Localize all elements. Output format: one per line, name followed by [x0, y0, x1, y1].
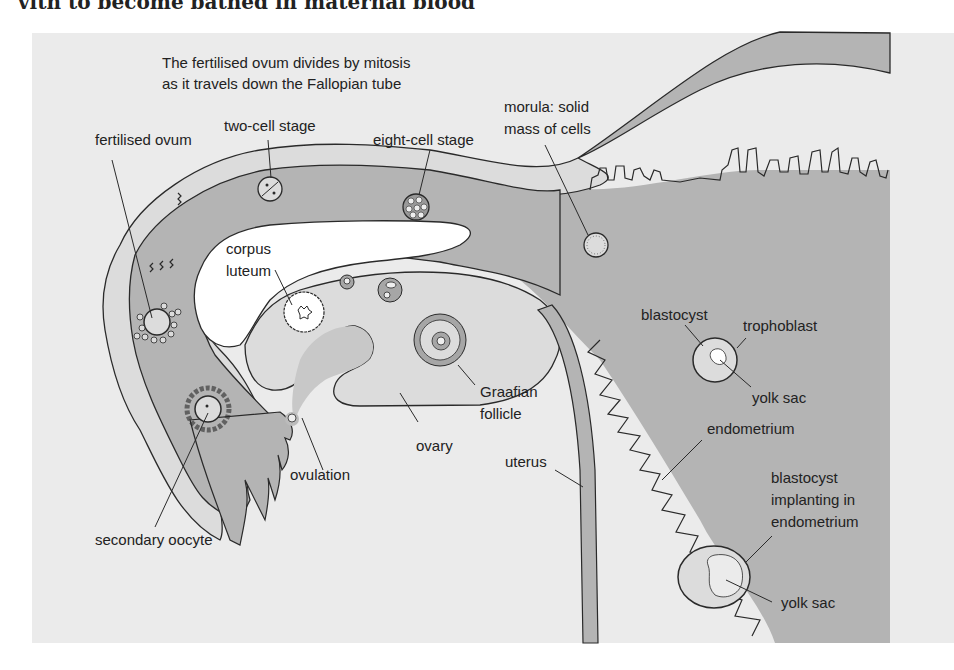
label-implant-2: implanting in	[771, 491, 855, 508]
label-implant-1: blastocyst	[771, 469, 839, 486]
label-ovulation: ovulation	[290, 466, 350, 483]
fertilisation-diagram: The fertilised ovum divides by mitosis a…	[0, 0, 954, 670]
eight-cell-stage-icon	[403, 194, 429, 220]
label-implant-3: endometrium	[771, 513, 859, 530]
label-blastocyst: blastocyst	[641, 306, 709, 323]
developing-follicle-icon	[378, 278, 402, 302]
label-morula-1: morula: solid	[504, 98, 589, 115]
label-graafian-1: Graafian	[480, 383, 538, 400]
label-corpus-2: luteum	[226, 262, 271, 279]
implanting-blastocyst-icon	[678, 546, 750, 608]
label-graafian-2: follicle	[480, 405, 522, 422]
label-ovary: ovary	[416, 437, 453, 454]
graafian-follicle-icon	[414, 314, 466, 366]
label-yolk-sac-1: yolk sac	[752, 389, 807, 406]
label-endometrium: endometrium	[707, 420, 795, 437]
blastocyst-icon	[693, 338, 737, 382]
label-trophoblast: trophoblast	[743, 317, 818, 334]
caption-line-1: The fertilised ovum divides by mitosis	[162, 54, 410, 71]
label-secondary-oocyte: secondary oocyte	[95, 531, 213, 548]
two-cell-stage-icon	[258, 177, 282, 201]
corpus-luteum-icon	[284, 292, 324, 332]
primary-follicle-icon	[340, 275, 354, 289]
label-yolk-sac-2: yolk sac	[781, 594, 836, 611]
label-eight-cell-stage: eight-cell stage	[373, 131, 474, 148]
morula-icon	[584, 233, 608, 257]
ovulated-oocyte-icon	[285, 412, 299, 426]
label-morula-2: mass of cells	[504, 120, 591, 137]
label-uterus: uterus	[505, 453, 547, 470]
label-fertilised-ovum: fertilised ovum	[95, 131, 192, 148]
caption-line-2: as it travels down the Fallopian tube	[162, 75, 401, 92]
uterine-wall-upper	[578, 32, 890, 158]
label-two-cell-stage: two-cell stage	[224, 117, 316, 134]
label-corpus-1: corpus	[226, 240, 271, 257]
